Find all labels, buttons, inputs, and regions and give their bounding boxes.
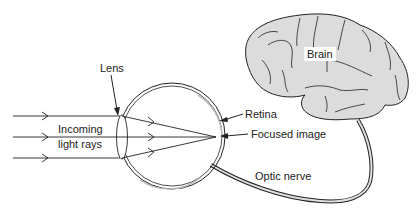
- incoming-label-line2: light rays: [58, 138, 103, 150]
- eye-brain-diagram: Brain Optic nerve Incoming light rays Le…: [0, 0, 420, 211]
- brain-label: Brain: [307, 48, 333, 60]
- arrowhead-icon: [219, 117, 228, 122]
- focused-image-label: Focused image: [251, 128, 326, 140]
- eyeball: [119, 83, 225, 189]
- incoming-label-line1: Incoming: [58, 123, 103, 135]
- ray-chevron-icon: [148, 148, 154, 157]
- light-rays: [13, 112, 216, 162]
- focused-image-pointer: [226, 134, 248, 136]
- lens-pointer: [111, 75, 117, 110]
- ray-chevron-icon: [148, 117, 154, 126]
- optic-nerve-label: Optic nerve: [255, 170, 311, 182]
- retina-label: Retina: [245, 108, 278, 120]
- lens-label: Lens: [100, 62, 124, 74]
- brain: Brain: [246, 14, 409, 120]
- arrowhead-icon: [114, 107, 120, 116]
